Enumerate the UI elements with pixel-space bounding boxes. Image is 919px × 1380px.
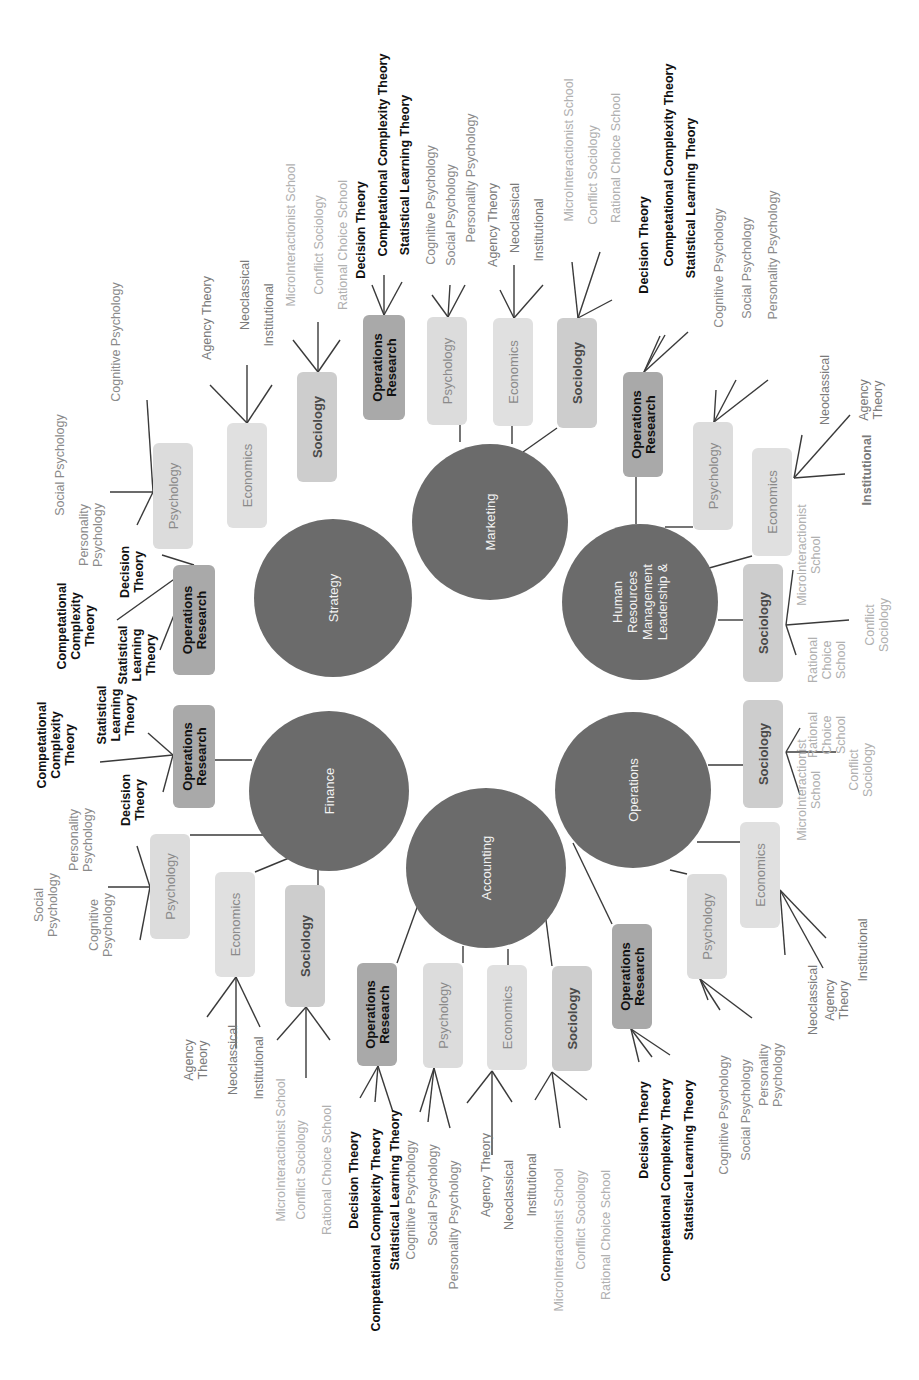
hub-node-marketing[interactable]: Marketing (412, 444, 568, 600)
theory-label-text-line: Agency Theory (486, 182, 500, 267)
theory-label: Institutional (525, 1153, 539, 1216)
theory-label-text: Statistical Learning Theory (684, 118, 698, 279)
theory-label: PersonalityPsychology (77, 502, 105, 567)
theory-label-text-line: Social Psychology (426, 1144, 440, 1246)
discipline-box-operations-research[interactable]: OperationsResearch (173, 565, 215, 675)
discipline-box-psychology[interactable]: Psychology (150, 834, 190, 939)
theory-label: StatisticalLearningTheory (95, 685, 137, 744)
box-to-theory-edge (644, 332, 688, 372)
discipline-box-economics[interactable]: Economics (227, 423, 267, 528)
theory-label-text: Personality Psychology (766, 190, 780, 320)
theory-label: MicroInteractionist School (552, 1168, 566, 1311)
discipline-box-psychology[interactable]: Psychology (693, 422, 733, 530)
discipline-box-sociology[interactable]: Sociology (557, 318, 597, 428)
box-label: Sociology (310, 395, 325, 458)
box-label: OperationsResearch (629, 390, 658, 459)
hub-node-operations[interactable]: Operations (555, 712, 711, 868)
theory-label: Conflict Sociology (574, 1170, 588, 1270)
theory-label-text-line: Rational Choice School (599, 1170, 613, 1300)
theory-label: DecisionTheory (119, 774, 147, 826)
theory-label-text: Competational Complexity Theory (659, 1079, 673, 1282)
theory-label-text: AgencyTheory (823, 978, 851, 1020)
theory-label: Neoclassical (806, 965, 820, 1035)
theory-label-text: Social Psychology (740, 217, 754, 319)
discipline-box-economics[interactable]: Economics (215, 872, 255, 977)
theory-label-text-line: Cognitive Psychology (109, 282, 123, 402)
box-to-theory-edge (277, 1007, 306, 1040)
discipline-box-sociology[interactable]: Sociology (285, 885, 325, 1007)
discipline-box-economics[interactable]: Economics (493, 318, 533, 426)
discipline-box-operations-research[interactable]: OperationsResearch (173, 705, 215, 808)
hub-node-strategy[interactable]: Strategy (254, 519, 412, 677)
discipline-box-psychology[interactable]: Psychology (687, 874, 727, 979)
theory-label-text: MicroInteractionist School (284, 163, 298, 306)
theory-label-text-line: MicroInteractionist School (284, 163, 298, 306)
box-label-line: Operations (363, 980, 378, 1049)
theory-label-text: Institutional (860, 435, 874, 506)
discipline-box-operations-research[interactable]: OperationsResearch (612, 924, 652, 1029)
theory-label-text: DecisionTheory (118, 546, 146, 598)
box-to-theory-edge (714, 380, 736, 422)
theory-label: Institutional (252, 1036, 266, 1099)
theory-label-text: Competational Complexity Theory (662, 64, 676, 267)
discipline-box-psychology[interactable]: Psychology (423, 963, 463, 1068)
theory-label: Neoclassical (818, 355, 832, 425)
hub-node-hr[interactable]: HumanResourcesManagementLeadership & (562, 524, 718, 680)
theory-label-text: Conflict Sociology (312, 195, 326, 295)
theory-label-text: AgencyTheory (182, 1038, 210, 1080)
theory-label: Conflict Sociology (294, 1120, 308, 1220)
theory-label-text-line: Institutional (525, 1153, 539, 1216)
discipline-box-economics[interactable]: Economics (752, 448, 792, 556)
theory-label-text: Social Psychology (53, 414, 67, 516)
box-to-theory-edge (492, 1071, 512, 1102)
box-label: OperationsResearch (370, 333, 399, 402)
theory-label: Neoclassical (226, 1025, 240, 1095)
theory-label-text: Personality Psychology (464, 113, 478, 243)
discipline-box-psychology[interactable]: Psychology (153, 443, 193, 549)
discipline-box-sociology[interactable]: Sociology (552, 966, 592, 1071)
hub-node-finance[interactable]: Finance (249, 711, 409, 871)
theory-label-text-line: Rational Choice School (336, 180, 350, 310)
discipline-box-sociology[interactable]: Sociology (743, 700, 783, 808)
box-to-theory-edge (500, 290, 514, 318)
theory-label-text-line: Conflict (847, 749, 861, 791)
discipline-box-economics[interactable]: Economics (487, 965, 527, 1070)
discipline-box-operations-research[interactable]: OperationsResearch (363, 315, 405, 420)
discipline-box-operations-research[interactable]: OperationsResearch (623, 372, 663, 477)
theory-label-text-line: Theory (144, 634, 158, 676)
theory-label-text: Rational Choice School (336, 180, 350, 310)
box-to-theory-edge (162, 555, 194, 565)
theory-label-text-line: Agency Theory (200, 275, 214, 360)
theory-label: CognitivePsychology (87, 892, 115, 957)
box-to-theory-edge (448, 285, 465, 317)
theory-label: Decision Theory (347, 1131, 361, 1228)
hub-label: Finance (322, 768, 337, 814)
hub-node-accounting[interactable]: Accounting (406, 788, 566, 948)
discipline-box-sociology[interactable]: Sociology (297, 372, 337, 482)
theory-label: Personality Psychology (447, 1160, 461, 1290)
hub-label: Accounting (479, 836, 494, 900)
theory-label-text-line: Psychology (771, 1042, 785, 1107)
discipline-box-psychology[interactable]: Psychology (427, 317, 467, 425)
theory-label-text: Agency Theory (479, 1132, 493, 1217)
theory-label-text-line: Social Psychology (740, 217, 754, 319)
box-to-theory-edge (786, 625, 796, 655)
box-label: Psychology (166, 462, 181, 529)
theory-label: Social Psychology (740, 217, 754, 319)
theory-label: RationalChoiceSchool (806, 637, 848, 683)
box-label-line: Economics (765, 470, 780, 534)
discipline-box-operations-research[interactable]: OperationsResearch (357, 963, 397, 1066)
theory-label-text-line: Conflict Sociology (586, 125, 600, 225)
theory-label-text-line: Theory (133, 779, 147, 821)
theory-label-text-line: Statistical (116, 625, 130, 684)
theory-label-text-line: Rational (806, 712, 820, 758)
box-label-line: Economics (500, 985, 515, 1049)
theory-label-text-line: School (809, 771, 823, 809)
box-label-line: Psychology (166, 462, 181, 529)
discipline-box-economics[interactable]: Economics (740, 822, 780, 928)
theory-label-text-line: Decision Theory (637, 1081, 651, 1178)
discipline-box-sociology[interactable]: Sociology (743, 564, 783, 682)
theory-label: Rational Choice School (320, 1105, 334, 1235)
box-to-theory-edge (378, 1066, 393, 1112)
theory-label-text: Statistical Learning Theory (682, 1080, 696, 1241)
